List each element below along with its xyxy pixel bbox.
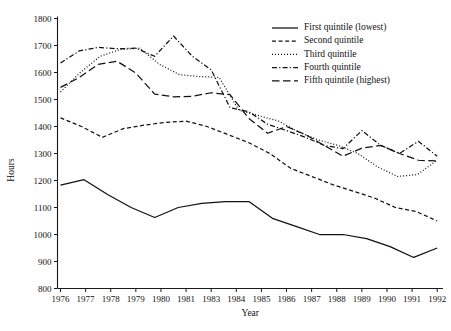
- legend-label-1: First quintile (lowest): [304, 22, 386, 33]
- chart-legend: First quintile (lowest)Second quintileTh…: [272, 22, 390, 86]
- series-line-2: [61, 118, 438, 221]
- x-tick-label: 1991: [403, 294, 421, 304]
- y-tick-label: 1700: [34, 41, 53, 51]
- y-axis-title: Hours: [6, 158, 16, 182]
- x-tick-label: 1981: [177, 294, 195, 304]
- x-tick-label: 1983: [202, 294, 221, 304]
- x-tick-label: 1989: [353, 294, 372, 304]
- x-tick-label: 1979: [127, 294, 146, 304]
- y-tick-label: 1000: [34, 230, 53, 240]
- x-axis: 1976197719781979198019811983198419851986…: [52, 289, 447, 304]
- x-tick-label: 1986: [278, 294, 297, 304]
- legend-label-3: Third quintile: [304, 49, 357, 59]
- x-tick-label: 1976: [52, 294, 71, 304]
- x-tick-label: 1990: [378, 294, 397, 304]
- x-tick-label: 1985: [252, 294, 271, 304]
- x-tick-label: 1984: [227, 294, 246, 304]
- y-axis: 8009001000110012001300140015001600170018…: [34, 14, 58, 294]
- x-tick-label: 1992: [428, 294, 446, 304]
- y-tick-label: 1400: [34, 122, 53, 132]
- series-line-1: [61, 180, 438, 258]
- y-tick-label: 1800: [34, 14, 53, 24]
- x-tick-label: 1977: [77, 294, 96, 304]
- legend-label-4: Fourth quintile: [304, 62, 361, 72]
- chart-canvas: 8009001000110012001300140015001600170018…: [0, 0, 451, 331]
- y-tick-label: 1200: [34, 176, 53, 186]
- x-axis-title: Year: [241, 308, 259, 318]
- legend-label-2: Second quintile: [304, 35, 363, 45]
- y-tick-label: 1500: [34, 95, 53, 105]
- y-tick-label: 800: [38, 284, 52, 294]
- y-tick-label: 1600: [34, 68, 53, 78]
- y-tick-label: 1300: [34, 149, 53, 159]
- legend-label-5: Fifth quintile (highest): [304, 75, 390, 86]
- line-chart-hours-by-quintile: 8009001000110012001300140015001600170018…: [0, 0, 451, 331]
- series-layer: [61, 36, 438, 257]
- x-tick-label: 1987: [303, 294, 322, 304]
- series-line-3: [61, 48, 438, 176]
- x-tick-label: 1988: [328, 294, 347, 304]
- x-tick-label: 1978: [102, 294, 121, 304]
- y-tick-label: 900: [38, 257, 52, 267]
- series-line-4: [61, 36, 438, 156]
- y-tick-label: 1100: [34, 203, 52, 213]
- x-tick-label: 1980: [152, 294, 171, 304]
